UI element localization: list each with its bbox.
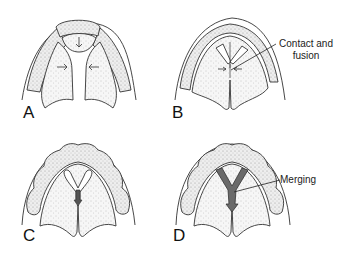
annotation-merging: Merging — [280, 174, 316, 186]
panel-label-a: A — [23, 104, 34, 121]
palate-stage-b-illustration — [170, 0, 340, 128]
annotation-line-1: Contact and — [279, 38, 333, 49]
panel-label-d: D — [173, 227, 185, 244]
panel-a: A — [0, 0, 170, 128]
panel-label-c: C — [23, 227, 35, 244]
panel-label-b: B — [172, 104, 183, 121]
panel-b: Contact and fusion B — [170, 0, 340, 128]
palate-stage-d-illustration — [170, 130, 340, 257]
annotation-line-2: fusion — [293, 50, 320, 61]
annotation-contact-and-fusion: Contact and fusion — [275, 38, 337, 61]
panel-c: C — [0, 130, 170, 257]
panel-d: Merging D — [170, 130, 340, 257]
